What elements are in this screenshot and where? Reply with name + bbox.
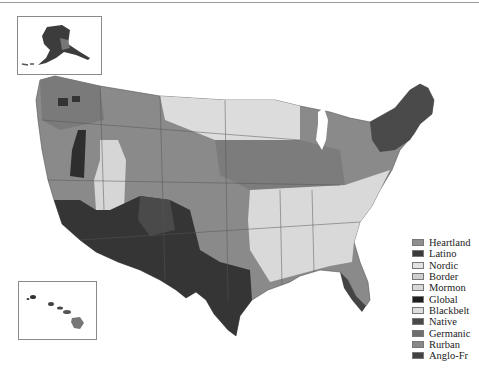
legend-item-latino: Latino (412, 248, 478, 259)
legend-item-anglo-fr: Anglo-Fr (412, 350, 478, 361)
legend-item-global: Global (412, 293, 478, 304)
swatch-icon (412, 330, 424, 337)
alaska-shape (22, 25, 90, 65)
map-legend: Heartland Latino Nordic Border Mormon Gl… (412, 237, 478, 361)
swatch-icon (412, 341, 424, 348)
legend-label: Mormon (429, 282, 466, 293)
legend-item-heartland: Heartland (412, 237, 478, 248)
legend-item-rurban: Rurban (412, 339, 478, 350)
region-anglo-fr (370, 84, 434, 152)
legend-label: Latino (429, 248, 456, 259)
legend-item-border: Border (412, 271, 478, 282)
swatch-icon (412, 262, 424, 269)
swatch-icon (412, 239, 424, 246)
swatch-icon (412, 284, 424, 291)
hawaii-shape (27, 295, 85, 329)
legend-label: Blackbelt (429, 305, 469, 316)
region-native-nw2 (72, 96, 80, 102)
region-northwest (40, 76, 104, 130)
legend-label: Anglo-Fr (429, 350, 468, 361)
swatch-icon (412, 318, 424, 325)
legend-label: Global (429, 294, 458, 305)
legend-label: Border (429, 271, 458, 282)
legend-item-native: Native (412, 316, 478, 327)
legend-label: Native (429, 316, 457, 327)
legend-label: Rurban (429, 339, 460, 350)
swatch-icon (412, 250, 424, 257)
swatch-icon (412, 296, 424, 303)
legend-item-mormon: Mormon (412, 282, 478, 293)
legend-item-nordic: Nordic (412, 260, 478, 271)
legend-item-germanic: Germanic (412, 327, 478, 338)
legend-label: Nordic (429, 260, 458, 271)
legend-label: Germanic (429, 328, 470, 339)
legend-label: Heartland (429, 237, 470, 248)
us-county-map (0, 0, 479, 372)
swatch-icon (412, 273, 424, 280)
region-native-nw (58, 98, 68, 106)
legend-item-blackbelt: Blackbelt (412, 305, 478, 316)
swatch-icon (412, 352, 424, 359)
swatch-icon (412, 307, 424, 314)
